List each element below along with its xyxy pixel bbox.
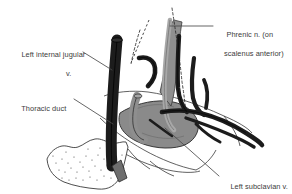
hooked-vessel: [139, 57, 155, 86]
label-ij-line2: v.: [13, 69, 85, 78]
label-ph-line1: Phrenic n. (on: [226, 30, 273, 39]
leader-internal-jugular: [83, 52, 112, 70]
label-ph-line2: scalenus anterior): [218, 49, 284, 58]
label-sc-line1: Left subclavian v.: [230, 182, 287, 191]
label-phrenic-nerve: Phrenic n. (on scalenus anterior): [218, 21, 284, 76]
label-thoracic-duct: Thoracic duct: [13, 95, 66, 123]
label-left-subclavian-vein: Left subclavian v.: [222, 173, 288, 194]
label-ij-line1: Left internal jugular: [21, 50, 85, 59]
anatomy-figure: Left internal jugular v. Thoracic duct P…: [0, 0, 292, 194]
label-td-line1: Thoracic duct: [21, 104, 66, 113]
label-left-internal-jugular-vein: Left internal jugular v.: [13, 41, 85, 96]
